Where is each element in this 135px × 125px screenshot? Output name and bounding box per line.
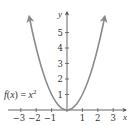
- x-axis-label: x: [122, 112, 127, 122]
- y-tick-label: 5: [58, 28, 63, 38]
- x-tick-label: −1: [44, 113, 57, 123]
- x-tick-label: 2: [95, 113, 100, 123]
- x-tick-label: −2: [28, 113, 41, 123]
- y-tick-labels: 1 2 3 4 5: [58, 28, 63, 100]
- x-tick-label: 3: [110, 113, 115, 123]
- x-tick-labels: −3 −2 −1 1 2 3: [13, 113, 116, 123]
- function-label: f(x) = x2: [4, 88, 37, 101]
- y-tick-label: 3: [58, 59, 63, 69]
- y-tick-label: 2: [58, 74, 63, 84]
- y-tick-label: 1: [58, 90, 63, 100]
- y-axis-label: y: [57, 9, 62, 19]
- x-tick-label: 1: [80, 113, 85, 123]
- y-tick-label: 4: [58, 43, 63, 53]
- x-tick-label: −3: [13, 113, 26, 123]
- parabola-chart: −3 −2 −1 1 2 3 1 2 3 4 5 x y f(x) = x2: [0, 0, 135, 125]
